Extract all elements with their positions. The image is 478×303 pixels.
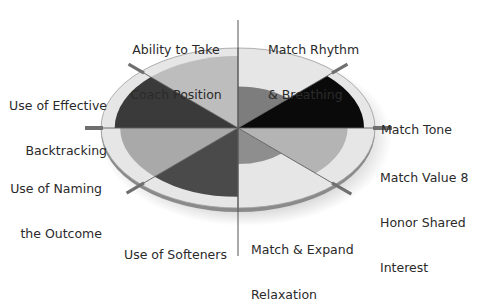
- label-naming-outcome: Use of Naming the Outcome: [0, 151, 102, 256]
- label-softeners: Use of Softeners: [124, 217, 227, 277]
- label-relaxation: Match & Expand Relaxation: [251, 212, 354, 303]
- label-value-interest: Match Value 8 Honor Shared Interest: [380, 140, 468, 290]
- label-rhythm-breathing: Match Rhythm & Breathing: [268, 12, 359, 117]
- label-match-tone: Match Tone: [381, 92, 452, 152]
- label-coach-position: Ability to Take Coach Position: [110, 12, 242, 117]
